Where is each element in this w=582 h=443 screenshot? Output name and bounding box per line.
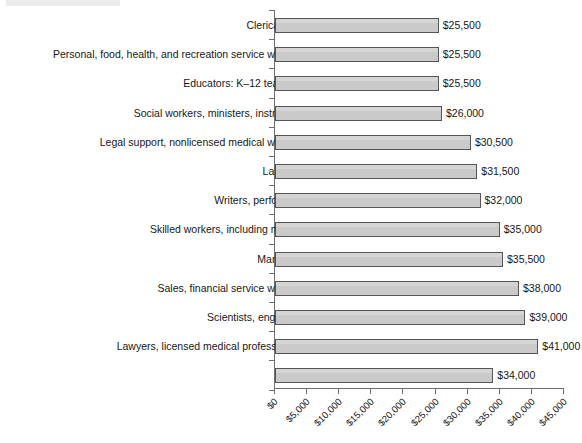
y-axis-tick bbox=[269, 214, 274, 215]
chart-bar-row: Legal support, nonlicensed medical worke… bbox=[0, 135, 582, 150]
x-axis-tick bbox=[563, 389, 564, 394]
bar bbox=[275, 193, 481, 208]
bar-highlight bbox=[276, 136, 470, 140]
bar bbox=[275, 106, 442, 121]
bar bbox=[275, 339, 538, 354]
bar-highlight bbox=[276, 19, 438, 23]
x-axis-tick bbox=[306, 389, 307, 394]
bar bbox=[275, 281, 519, 296]
bar bbox=[275, 135, 471, 150]
bar bbox=[275, 222, 500, 237]
chart-bar-row: Skilled workers, including military$35,0… bbox=[0, 222, 582, 237]
bar bbox=[275, 252, 503, 267]
bar-highlight bbox=[276, 107, 441, 111]
bar-highlight bbox=[276, 282, 518, 286]
chart-bar-row: Writers, performers$32,000 bbox=[0, 193, 582, 208]
y-axis-tick bbox=[269, 127, 274, 128]
bar-value-label: $26,000 bbox=[446, 106, 484, 121]
y-axis-tick bbox=[269, 68, 274, 69]
y-axis-tick bbox=[269, 98, 274, 99]
y-axis-tick bbox=[269, 360, 274, 361]
bar-highlight bbox=[276, 223, 499, 227]
x-axis-tick bbox=[338, 389, 339, 394]
category-label: Legal support, nonlicensed medical worke… bbox=[100, 135, 304, 150]
bar-chart-figure: $0$5,000$10,000$15,000$20,000$25,000$30,… bbox=[0, 0, 582, 443]
x-axis-tick-label: $20,000 bbox=[376, 396, 408, 428]
bar-highlight bbox=[276, 77, 438, 81]
x-axis-tick bbox=[531, 389, 532, 394]
bar bbox=[275, 47, 439, 62]
x-axis-tick bbox=[467, 389, 468, 394]
y-axis-tick bbox=[269, 302, 274, 303]
x-axis-tick-label: $5,000 bbox=[284, 396, 312, 424]
bar-value-label: $34,000 bbox=[497, 368, 535, 383]
bar-highlight bbox=[276, 194, 480, 198]
chart-bar-row: Social workers, ministers, instructors$2… bbox=[0, 106, 582, 121]
bar-highlight bbox=[276, 311, 524, 315]
x-axis-tick bbox=[274, 389, 275, 394]
x-axis-tick-label: $35,000 bbox=[472, 396, 504, 428]
bar-value-label: $25,500 bbox=[443, 18, 481, 33]
bar-value-label: $30,500 bbox=[475, 135, 513, 150]
scan-artifact bbox=[6, 0, 120, 6]
bar-highlight bbox=[276, 48, 438, 52]
bar-value-label: $25,500 bbox=[443, 76, 481, 91]
y-axis-tick bbox=[269, 244, 274, 245]
y-axis-tick bbox=[269, 10, 274, 11]
x-axis-tick-label: $25,000 bbox=[408, 396, 440, 428]
x-axis-tick-label: $15,000 bbox=[344, 396, 376, 428]
bar-highlight bbox=[276, 340, 537, 344]
x-axis-tick bbox=[499, 389, 500, 394]
y-axis-tick bbox=[269, 39, 274, 40]
bar-value-label: $32,000 bbox=[485, 193, 523, 208]
x-axis-line bbox=[274, 388, 564, 389]
x-axis-tick-label: $30,000 bbox=[440, 396, 472, 428]
bar-value-label: $35,000 bbox=[504, 222, 542, 237]
bar-value-label: $39,000 bbox=[529, 310, 567, 325]
bar bbox=[275, 76, 439, 91]
bar-highlight bbox=[276, 253, 502, 257]
chart-bar-row: Clerical staff$25,500 bbox=[0, 18, 582, 33]
x-axis-tick bbox=[370, 389, 371, 394]
x-axis-tick-label: $45,000 bbox=[537, 396, 569, 428]
chart-bar-row: Sales, financial service workers$38,000 bbox=[0, 281, 582, 296]
bar bbox=[275, 164, 477, 179]
chart-bar-row: Managers$35,500 bbox=[0, 252, 582, 267]
bar bbox=[275, 310, 525, 325]
chart-bar-row: Educators: K–12 teachers$25,500 bbox=[0, 76, 582, 91]
bar-value-label: $31,500 bbox=[481, 164, 519, 179]
category-label: Personal, food, health, and recreation s… bbox=[53, 47, 304, 62]
bar-highlight bbox=[276, 165, 476, 169]
chart-bar-row: Lawyers, licensed medical professionals$… bbox=[0, 339, 582, 354]
y-axis-tick bbox=[269, 156, 274, 157]
x-axis-tick-label: $10,000 bbox=[312, 396, 344, 428]
chart-bar-row: Total$34,000 bbox=[0, 368, 582, 383]
y-axis-tick bbox=[269, 273, 274, 274]
bar bbox=[275, 18, 439, 33]
x-axis-tick bbox=[402, 389, 403, 394]
x-axis-tick-label: $40,000 bbox=[505, 396, 537, 428]
chart-bar-row: Scientists, engineers$39,000 bbox=[0, 310, 582, 325]
x-axis-tick-label: $0 bbox=[265, 396, 280, 411]
y-axis-tick bbox=[269, 331, 274, 332]
bar bbox=[275, 368, 493, 383]
bar-highlight bbox=[276, 369, 492, 373]
bar-value-label: $41,000 bbox=[542, 339, 580, 354]
chart-bar-row: Laborers$31,500 bbox=[0, 164, 582, 179]
bar-value-label: $35,500 bbox=[507, 252, 545, 267]
y-axis-tick bbox=[269, 185, 274, 186]
bar-value-label: $25,500 bbox=[443, 47, 481, 62]
bar-value-label: $38,000 bbox=[523, 281, 561, 296]
chart-bar-row: Personal, food, health, and recreation s… bbox=[0, 47, 582, 62]
x-axis-tick bbox=[435, 389, 436, 394]
